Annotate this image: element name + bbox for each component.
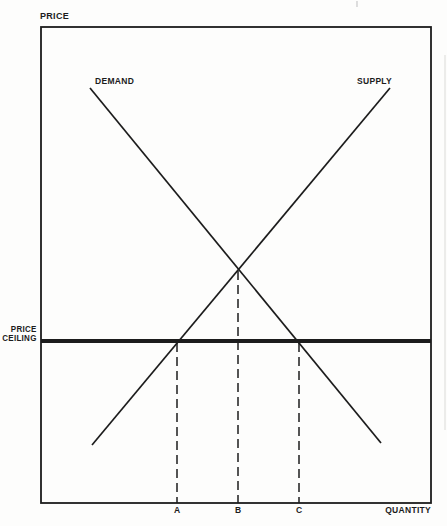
x-axis-title: QUANTITY xyxy=(341,506,431,515)
x-tick-label-a: A xyxy=(174,505,180,515)
x-tick-label-b: B xyxy=(235,505,241,515)
demand-curve xyxy=(90,88,381,443)
price-ceiling-label-line2: CEILING xyxy=(2,333,36,343)
y-axis-title: PRICE xyxy=(40,12,69,21)
demand-curve-label: DEMAND xyxy=(95,77,134,86)
supply-demand-price-ceiling-figure: PRICE DEMAND SUPPLY PRICECEILING A B C Q… xyxy=(0,0,447,526)
price-ceiling-label: PRICECEILING xyxy=(0,325,37,343)
supply-curve-label: SUPPLY xyxy=(357,77,392,86)
x-tick-label-c: C xyxy=(296,505,302,515)
supply-curve xyxy=(92,88,390,445)
